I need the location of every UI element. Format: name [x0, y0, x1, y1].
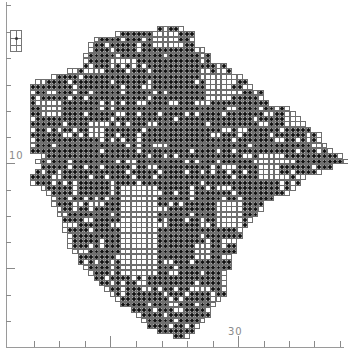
grid-cell-empty	[290, 185, 296, 191]
grid-cell-present	[226, 265, 232, 271]
grid-cell-present	[253, 212, 259, 218]
grid-cell-empty	[316, 169, 322, 175]
grid-cell-present	[269, 196, 275, 202]
grid-cell-empty	[258, 206, 264, 212]
grid-cell-present	[221, 291, 227, 297]
grid-cell-empty	[343, 159, 348, 165]
grid-cell-present	[237, 233, 243, 239]
grid-cell-empty	[300, 174, 306, 180]
grid-cell-present	[205, 312, 211, 318]
grid-cell-present	[327, 164, 333, 170]
distribution-grid	[0, 0, 348, 359]
grid-cell-empty	[184, 333, 190, 339]
grid-cell-empty	[210, 302, 216, 308]
grid-cell-present	[295, 180, 301, 186]
distribution-map-figure: 10 30	[0, 0, 348, 359]
grid-cell-empty	[200, 318, 206, 324]
grid-cell-empty	[247, 217, 253, 223]
grid-cell-empty	[194, 323, 200, 329]
grid-cell-present	[189, 328, 195, 334]
grid-cell-present	[231, 249, 237, 255]
grid-cell-empty	[284, 190, 290, 196]
grid-cell-present	[242, 222, 248, 228]
grid-cell-empty	[216, 296, 222, 302]
